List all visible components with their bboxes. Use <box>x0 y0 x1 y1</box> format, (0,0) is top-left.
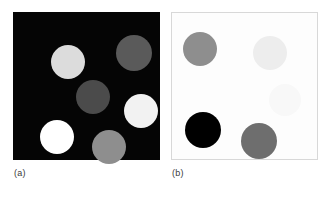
panel-b <box>171 12 318 160</box>
panel-b-caption: (b) <box>172 168 184 178</box>
panel-a-caption: (a) <box>14 168 26 178</box>
panel-a <box>13 12 160 160</box>
panel-b-disk-bottom-mid <box>241 123 277 159</box>
panel-a-disk-top-right <box>116 35 152 71</box>
panel-a-disk-bottom-mid <box>92 130 126 164</box>
panel-b-disk-top-right <box>253 36 287 70</box>
panel-b-disk-middle-right <box>269 84 301 116</box>
panel-a-disk-middle-right <box>124 94 158 128</box>
figure-container: (a) (b) <box>0 0 331 198</box>
panel-a-disk-top-left <box>51 45 85 79</box>
panel-b-disk-top-left <box>183 32 217 66</box>
panel-a-disk-bottom-left <box>40 120 74 154</box>
panel-a-disk-center <box>76 80 110 114</box>
panel-b-disk-bottom-left <box>185 112 221 148</box>
